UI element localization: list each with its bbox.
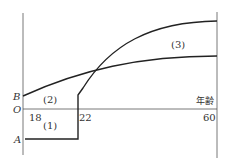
region-label-3: (3) — [171, 39, 185, 50]
tick-18: 18 — [29, 112, 42, 123]
region-label-2: (2) — [43, 94, 57, 105]
label-A: A — [13, 134, 21, 145]
label-B: B — [12, 91, 20, 102]
tick-22: 22 — [79, 112, 92, 123]
x-axis-title: 年齢 — [196, 95, 214, 106]
region-label-1: (1) — [43, 120, 57, 131]
age-income-diagram: B O A 18 22 60 年齢 (1) (2) (3) — [0, 0, 228, 165]
income-curve-smooth — [23, 56, 217, 96]
tick-60: 60 — [203, 112, 216, 123]
label-origin: O — [13, 104, 21, 115]
